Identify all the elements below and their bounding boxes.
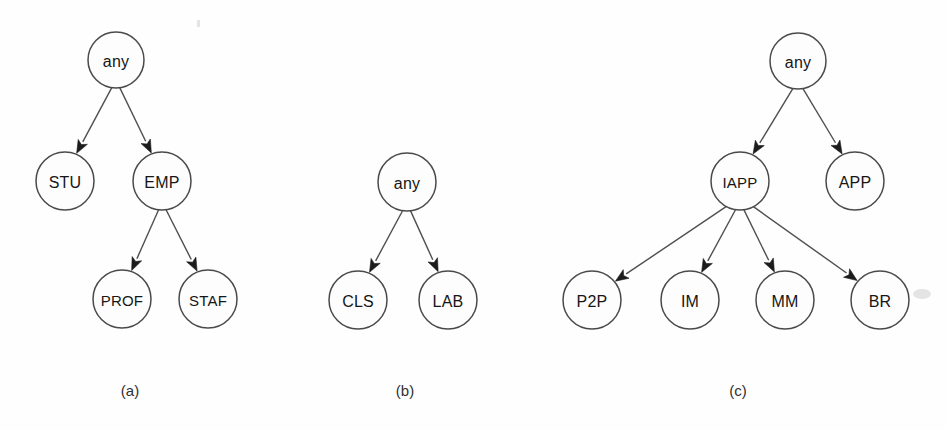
figure-root: anySTUEMPPROFSTAFanyCLSLABanyIAPPAPPP2PI… — [0, 0, 946, 430]
edge-c-any-to-c-app — [802, 86, 836, 142]
nodes-layer: anySTUEMPPROFSTAFanyCLSLABanyIAPPAPPP2PI… — [36, 32, 909, 329]
arrowhead-icon-a-emp — [141, 139, 151, 153]
node-label: any — [394, 175, 420, 192]
edge-a-emp-to-a-staf — [165, 208, 191, 259]
node-b-cls[interactable]: CLS — [329, 271, 387, 329]
node-label: any — [785, 54, 811, 71]
edge-a-any-to-a-emp — [119, 86, 146, 141]
node-label: IAPP — [723, 174, 758, 191]
node-label: STAF — [189, 292, 227, 309]
arrowhead-icon-c-im — [702, 258, 713, 272]
arrowhead-icon-a-stu — [77, 139, 88, 153]
captions-layer: (a)(b)(c) — [121, 382, 747, 399]
node-c-mm[interactable]: MM — [756, 271, 814, 329]
edge-a-emp-to-a-prof — [137, 208, 159, 258]
scan-speck — [197, 20, 200, 27]
node-c-br[interactable]: BR — [851, 271, 909, 329]
edge-a-any-to-a-stu — [83, 86, 113, 142]
caption-panel-a: (a) — [121, 382, 139, 399]
node-label: P2P — [577, 293, 608, 310]
arrowhead-icon-a-prof — [132, 257, 142, 271]
edge-c-iapp-to-c-p2p — [626, 202, 733, 274]
arrowhead-icon-c-p2p — [615, 270, 629, 282]
arrowhead-icon-c-app — [831, 140, 842, 154]
node-c-any[interactable]: any — [770, 33, 826, 89]
node-label: STU — [49, 174, 82, 191]
node-c-im[interactable]: IM — [661, 271, 719, 329]
node-b-lab[interactable]: LAB — [419, 271, 477, 329]
arrowhead-icon-c-br — [844, 269, 858, 281]
node-a-emp[interactable]: EMP — [133, 152, 191, 210]
node-label: LAB — [433, 293, 464, 310]
caption-panel-c: (c) — [729, 382, 747, 399]
figure-canvas: anySTUEMPPROFSTAFanyCLSLABanyIAPPAPPP2PI… — [0, 0, 946, 430]
edge-b-any-to-b-lab — [410, 209, 433, 259]
node-label: any — [103, 53, 129, 70]
node-label: CLS — [342, 293, 374, 310]
node-label: APP — [839, 174, 872, 191]
edge-c-iapp-to-c-br — [747, 202, 847, 273]
arrowhead-icon-c-iapp — [753, 140, 764, 154]
node-a-staf[interactable]: STAF — [179, 270, 237, 328]
node-b-any[interactable]: any — [378, 153, 436, 211]
node-a-stu[interactable]: STU — [36, 152, 94, 210]
edge-c-any-to-c-iapp — [760, 86, 795, 143]
node-c-app[interactable]: APP — [826, 152, 884, 210]
node-label: PROF — [101, 292, 143, 309]
node-label: EMP — [144, 174, 179, 191]
node-a-any[interactable]: any — [88, 32, 144, 88]
caption-panel-b: (b) — [396, 382, 414, 399]
node-label: IM — [681, 293, 699, 310]
node-label: BR — [869, 293, 892, 310]
edge-c-iapp-to-c-mm — [743, 208, 769, 260]
node-c-iapp[interactable]: IAPP — [711, 152, 769, 210]
node-a-prof[interactable]: PROF — [93, 270, 151, 328]
node-label: MM — [771, 293, 798, 310]
scan-speck — [913, 289, 931, 299]
node-c-p2p[interactable]: P2P — [563, 271, 621, 329]
edge-b-any-to-b-cls — [376, 209, 404, 261]
arrowhead-icon-a-staf — [187, 257, 198, 271]
arrowhead-icon-b-cls — [370, 258, 381, 272]
arrowhead-icon-b-lab — [428, 258, 438, 272]
arrowhead-icon-c-mm — [764, 258, 774, 272]
